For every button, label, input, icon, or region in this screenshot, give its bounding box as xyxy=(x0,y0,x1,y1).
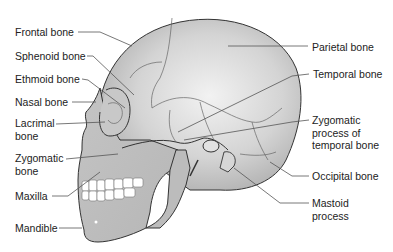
label-zygomatic-bone: Zygomatic bone xyxy=(15,152,63,177)
label-parietal-bone: Parietal bone xyxy=(312,41,374,54)
label-sphenoid-bone: Sphenoid bone xyxy=(15,50,86,63)
label-occipital-bone: Occipital bone xyxy=(312,170,379,183)
label-mastoid-process: Mastoid process xyxy=(312,197,349,222)
label-zygomatic-process: Zygomatic process of temporal bone xyxy=(312,114,379,152)
label-nasal-bone: Nasal bone xyxy=(15,96,68,109)
label-ethmoid-bone: Ethmoid bone xyxy=(15,73,80,86)
label-frontal-bone: Frontal bone xyxy=(15,26,74,39)
ear-canal xyxy=(203,140,219,152)
label-maxilla: Maxilla xyxy=(15,190,48,203)
mental-foramen xyxy=(95,221,98,224)
label-temporal-bone: Temporal bone xyxy=(313,68,382,81)
label-lacrimal-bone: Lacrimal bone xyxy=(15,117,55,142)
label-mandible: Mandible xyxy=(15,222,58,235)
